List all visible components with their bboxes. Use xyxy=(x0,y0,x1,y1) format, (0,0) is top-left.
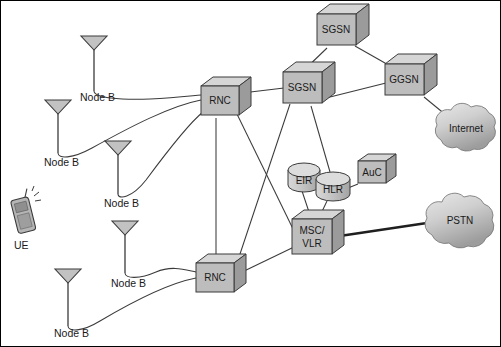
rnc-bottom-label: RNC xyxy=(204,272,226,283)
rnc-top-label: RNC xyxy=(209,95,231,106)
node-rnc-top[interactable]: RNC xyxy=(201,77,251,115)
node-ggsn[interactable]: GGSN xyxy=(385,54,437,95)
node-hlr[interactable]: HLR xyxy=(316,172,350,201)
nodeb4-label: Node B xyxy=(111,277,146,289)
node-internet-cloud[interactable]: Internet xyxy=(435,103,495,151)
nodeb2-label: Node B xyxy=(44,156,79,168)
node-sgsn-top[interactable]: SGSN xyxy=(317,4,369,45)
nodeb1-label: Node B xyxy=(80,91,115,103)
ggsn-label: GGSN xyxy=(389,74,418,85)
internet-label: Internet xyxy=(449,123,483,134)
diagram-canvas: Node B Node B Node B Node B Node B xyxy=(0,0,501,347)
diagram-border xyxy=(1,1,501,347)
sgsn-label: SGSN xyxy=(288,82,316,93)
node-sgsn[interactable]: SGSN xyxy=(283,62,335,103)
eir-label: EIR xyxy=(296,175,313,186)
msc-vlr-label-line1: MSC/ xyxy=(300,225,325,236)
msc-vlr-label-line2: VLR xyxy=(302,238,321,249)
node-eir[interactable]: EIR xyxy=(288,163,320,192)
ue-label: UE xyxy=(14,239,29,251)
nodeb3-label: Node B xyxy=(104,197,139,209)
node-auc[interactable]: AuC xyxy=(358,154,396,183)
node-msc-vlr[interactable]: MSC/ VLR xyxy=(292,210,344,254)
hlr-label: HLR xyxy=(323,184,343,195)
node-rnc-bottom[interactable]: RNC xyxy=(196,254,246,292)
nodeb5-label: Node B xyxy=(54,327,89,339)
network-diagram: Node B Node B Node B Node B Node B xyxy=(0,0,501,347)
sgsn-top-label: SGSN xyxy=(322,24,350,35)
pstn-label: PSTN xyxy=(447,215,474,226)
auc-label: AuC xyxy=(362,167,381,178)
